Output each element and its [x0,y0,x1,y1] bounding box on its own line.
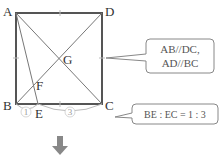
callout-parallel-line1: AB//DC, [160,43,200,55]
label-g: G [63,52,72,67]
ratio-ec: 3 [68,107,73,117]
label-a: A [3,4,13,19]
label-e: E [35,106,43,121]
ratio-be: 1 [24,107,29,117]
geometry-diagram: 1 3 A D B C E F G AB//DC, AD//BC BE : EC… [0,0,222,158]
segment-ae [16,13,38,104]
callout-ratio-text: BE : EC = 1 : 3 [144,109,206,120]
down-arrow-icon [52,136,68,155]
label-b: B [3,98,12,113]
label-c: C [105,98,114,113]
callout-parallel-line2: AD//BC [162,57,199,69]
label-d: D [105,4,114,19]
label-f: F [36,78,43,93]
